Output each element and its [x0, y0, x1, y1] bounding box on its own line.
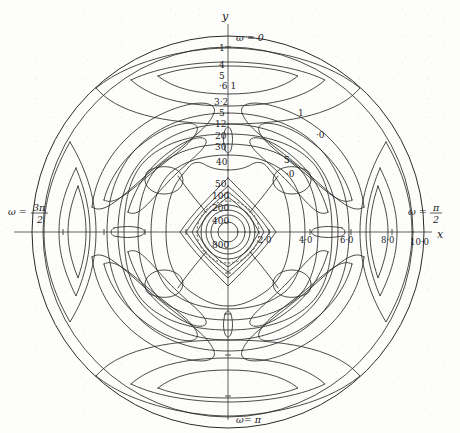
omega-zero-label: ω = 0 [236, 32, 264, 43]
ridge-lower-left [178, 252, 206, 288]
contour-label-6-1: ·6 1 [219, 81, 236, 91]
contour-label-5b: 5 [219, 108, 225, 118]
omega-left-numerator: 3π [33, 202, 46, 213]
contour-label-200: 200 [212, 203, 229, 213]
label-group: y x ω = 0 ω= π ω = π 2 ω = 3π 2 1 4 5 ·6… [8, 10, 444, 425]
contour-label-400: 400 [212, 216, 229, 226]
petal-lower-right-outer [242, 255, 364, 361]
omega-left-prefix: ω = [8, 206, 27, 217]
omega-right-denominator: 2 [432, 214, 439, 225]
interior-label-5: 5 [284, 155, 290, 165]
contour-figure: y x ω = 0 ω= π ω = π 2 ω = 3π 2 1 4 5 ·6… [0, 0, 460, 433]
contour-label-40: 40 [216, 157, 228, 167]
x-tick-label-2: 2·0 [258, 235, 272, 245]
ridge-upper-right [250, 176, 278, 212]
omega-left-denominator: 2 [36, 214, 43, 225]
omega-right-numerator: π [432, 202, 440, 213]
contour-label-5a: 5 [219, 71, 225, 81]
contour-label-50: 50 [215, 179, 227, 189]
contour-plot-svg: y x ω = 0 ω= π ω = π 2 ω = 3π 2 1 4 5 ·6… [0, 0, 460, 433]
contour-label-12: 12 [215, 119, 226, 129]
petal-upper-left-outer [92, 103, 214, 209]
omega-pi-label: ω= π [236, 414, 262, 425]
omega-3pi-over-2-label: ω = 3π 2 [8, 202, 48, 225]
x-tick-label-6: 6·0 [340, 235, 354, 245]
omega-right-prefix: ω = [408, 206, 427, 217]
contour-label-800: 800 [212, 240, 229, 250]
interior-label-1: 1 [298, 108, 304, 118]
contour-label-1: 1 [219, 43, 225, 53]
contour-label-30: 30 [215, 142, 227, 152]
x-tick-label-4: 4·0 [299, 235, 313, 245]
x-axis-label: x [437, 228, 444, 241]
contour-label-20: 20 [215, 131, 227, 141]
ridge-upper-left [178, 176, 206, 212]
contour-label-100: 100 [212, 191, 229, 201]
interior-label-0b: ·0 [286, 169, 295, 179]
contour-label-3-2: 3·2 [214, 97, 228, 107]
petal-lower-left-outer [92, 255, 214, 361]
x-tick-label-10: 10·0 [410, 237, 429, 247]
contour-label-4: 4 [219, 60, 225, 70]
x-tick-label-8: 8·0 [381, 235, 395, 245]
interior-label-0a: ·0 [316, 130, 325, 140]
petal-upper-right-outer [242, 103, 364, 209]
ridge-lower-right [250, 252, 278, 288]
y-axis-label: y [221, 10, 229, 23]
